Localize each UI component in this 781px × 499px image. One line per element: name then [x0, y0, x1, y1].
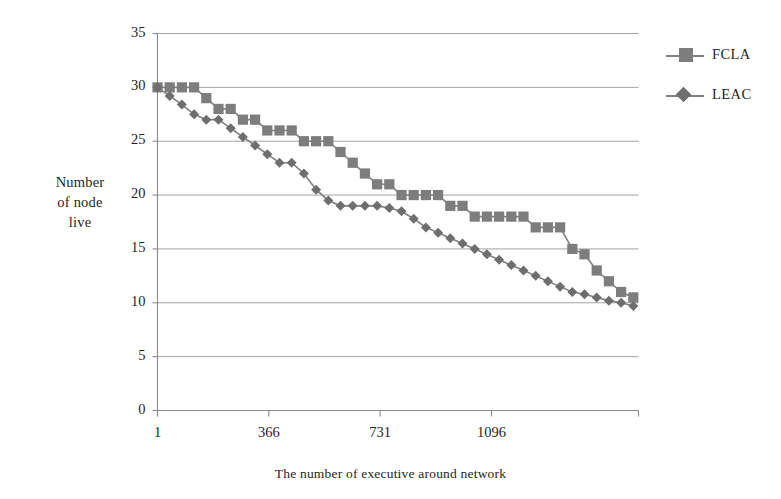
legend-label-fcla: FCLA: [712, 46, 751, 63]
data-point-marker-square: [396, 190, 406, 200]
data-point-marker-diamond: [214, 115, 224, 125]
data-point-marker-square: [628, 292, 638, 302]
data-point-marker-square: [506, 212, 516, 222]
data-point-marker-square: [555, 222, 565, 232]
y-tick-label: 20: [112, 185, 146, 202]
data-point-marker-diamond: [384, 203, 394, 213]
y-tick-label: 30: [112, 77, 146, 94]
data-point-marker-diamond: [604, 296, 614, 306]
data-point-marker-square: [518, 212, 528, 222]
data-point-marker-square: [592, 265, 602, 275]
y-tick-label: 0: [112, 401, 146, 418]
data-point-marker-square: [421, 190, 431, 200]
data-point-marker-square: [470, 212, 480, 222]
data-point-marker-diamond: [397, 206, 407, 216]
data-point-marker-square: [384, 179, 394, 189]
data-point-marker-diamond: [238, 132, 248, 142]
legend-diamond-marker-icon: [676, 86, 692, 102]
data-point-marker-square: [177, 82, 187, 92]
data-point-marker-diamond: [445, 233, 455, 243]
data-point-marker-diamond: [592, 292, 602, 302]
data-point-marker-diamond: [555, 282, 565, 292]
data-point-marker-diamond: [275, 158, 285, 168]
data-point-marker-diamond: [433, 228, 443, 238]
legend-item-fcla: FCLA: [666, 46, 776, 86]
x-tick-label: 366: [258, 424, 280, 441]
data-point-marker-diamond: [336, 201, 346, 211]
data-point-marker-square: [348, 158, 358, 168]
y-tick-label: 25: [112, 131, 146, 148]
data-point-marker-square: [372, 179, 382, 189]
data-point-marker-square: [287, 125, 297, 135]
legend-label-leac: LEAC: [712, 86, 751, 103]
legend-item-leac: LEAC: [666, 86, 776, 126]
data-point-marker-square: [165, 82, 175, 92]
series-line-leac: [158, 87, 634, 306]
data-point-marker-diamond: [567, 287, 577, 297]
series-line-fcla: [158, 87, 634, 297]
y-tick-label: 10: [112, 293, 146, 310]
data-point-marker-diamond: [250, 141, 260, 151]
data-point-marker-square: [457, 201, 467, 211]
data-point-marker-square: [482, 212, 492, 222]
data-point-marker-diamond: [226, 123, 236, 133]
y-tick-label: 5: [112, 347, 146, 364]
data-point-marker-square: [323, 136, 333, 146]
y-axis-title-line-3: live: [28, 212, 132, 232]
data-point-marker-diamond: [580, 289, 590, 299]
data-point-marker-square: [604, 276, 614, 286]
data-point-marker-square: [531, 222, 541, 232]
data-point-marker-square: [335, 147, 345, 157]
data-point-marker-square: [226, 104, 236, 114]
data-point-marker-square: [494, 212, 504, 222]
data-point-marker-diamond: [421, 222, 431, 232]
data-point-marker-square: [250, 115, 260, 125]
data-point-marker-square: [201, 93, 211, 103]
data-point-marker-square: [274, 125, 284, 135]
data-point-marker-square: [299, 136, 309, 146]
x-axis-title: The number of executive around network: [0, 466, 781, 482]
data-point-marker-diamond: [494, 255, 504, 265]
x-tick-label: 1096: [477, 424, 506, 441]
legend-square-marker-icon: [679, 48, 693, 62]
data-point-marker-square: [433, 190, 443, 200]
y-tick-label: 35: [112, 24, 146, 41]
data-point-marker-square: [238, 115, 248, 125]
data-point-marker-diamond: [165, 91, 175, 101]
data-point-marker-diamond: [372, 201, 382, 211]
data-point-marker-diamond: [519, 265, 529, 275]
y-tick-label: 15: [112, 239, 146, 256]
data-point-marker-square: [567, 244, 577, 254]
data-point-marker-square: [311, 136, 321, 146]
data-point-marker-diamond: [348, 201, 358, 211]
data-point-marker-diamond: [543, 276, 553, 286]
chart-legend: FCLA LEAC: [666, 46, 776, 126]
data-point-marker-diamond: [458, 239, 468, 249]
data-point-marker-diamond: [482, 249, 492, 259]
data-point-marker-square: [262, 125, 272, 135]
data-point-marker-diamond: [531, 271, 541, 281]
x-tick-label: 731: [369, 424, 391, 441]
data-point-marker-square: [579, 249, 589, 259]
data-point-marker-diamond: [616, 298, 626, 308]
data-point-marker-square: [616, 287, 626, 297]
data-point-marker-square: [360, 168, 370, 178]
data-point-marker-square: [189, 82, 199, 92]
data-point-marker-diamond: [360, 201, 370, 211]
data-point-marker-square: [409, 190, 419, 200]
chart-container: Number of node live The number of execut…: [0, 0, 781, 499]
data-point-marker-diamond: [409, 214, 419, 224]
data-point-marker-square: [445, 201, 455, 211]
data-point-marker-diamond: [201, 115, 211, 125]
data-point-marker-square: [213, 104, 223, 114]
data-point-marker-diamond: [470, 244, 480, 254]
data-point-marker-diamond: [506, 260, 516, 270]
x-tick-label: 1: [154, 424, 161, 441]
data-point-marker-diamond: [262, 149, 272, 159]
data-point-marker-square: [543, 222, 553, 232]
